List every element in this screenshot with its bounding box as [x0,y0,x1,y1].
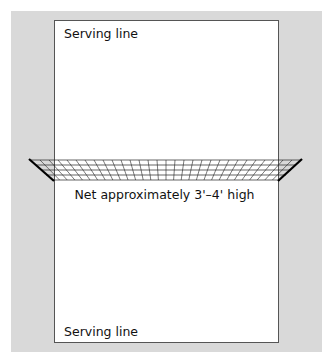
net-height-label: Net approximately 3'–4' high [0,187,329,202]
net-icon [0,0,329,363]
